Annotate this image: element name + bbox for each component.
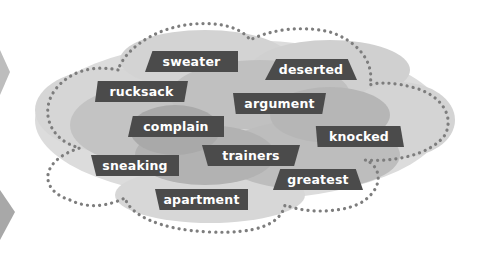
cloud-background [0,0,482,256]
word-text: sweater [163,54,221,69]
word-label-knocked: knocked [314,126,404,147]
word-text: complain [143,119,208,134]
word-text: rucksack [110,84,174,99]
word-text: greatest [287,172,349,187]
edge-diamond-top [0,50,10,95]
word-text: trainers [222,148,279,163]
word-text: apartment [163,192,239,207]
edge-diamond-bottom [0,190,15,240]
word-cloud-diagram: sweater deserted rucksack argument compl… [0,0,482,256]
word-label-complain: complain [128,116,224,137]
word-text: deserted [279,62,344,77]
word-label-apartment: apartment [155,189,248,210]
word-label-trainers: trainers [202,145,300,166]
word-label-deserted: deserted [265,59,357,80]
word-label-sneaking: sneaking [91,155,179,176]
word-text: sneaking [102,158,167,173]
word-text: argument [244,96,314,111]
word-label-greatest: greatest [273,169,363,190]
word-label-sweater: sweater [145,51,238,72]
word-label-argument: argument [233,93,326,114]
word-text: knocked [329,129,389,144]
word-label-rucksack: rucksack [95,81,188,102]
